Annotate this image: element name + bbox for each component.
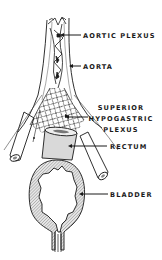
label-hypogastric: HYPOGASTRIC [89,115,154,123]
label-plexus: PLEXUS [103,126,138,134]
label-superior: SUPERIOR [98,104,144,112]
label-bladder: BLADDER [110,191,153,199]
label-rectum: RECTUM [110,143,147,151]
rectum [42,126,77,160]
label-aortic-plexus: AORTIC PLEXUS [83,32,156,40]
anatomy-diagram: AORTIC PLEXUS AORTA SUPERIOR HYPOGASTRIC… [0,0,162,260]
aortic-plexus-nerves [48,17,66,88]
left-iliac-vessel [9,112,34,163]
right-iliac-vessel [80,132,109,181]
bladder [29,160,84,252]
label-aorta: AORTA [83,63,113,71]
